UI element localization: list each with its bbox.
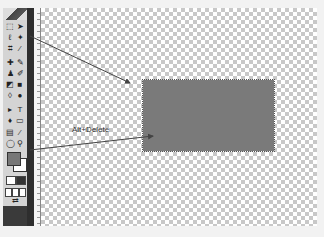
crop-tool-icon[interactable]: ⌗ xyxy=(5,44,15,54)
standard-mode-button[interactable] xyxy=(6,176,16,185)
filled-selection[interactable] xyxy=(143,80,274,151)
panel-divider xyxy=(27,8,34,226)
eraser-tool-icon[interactable]: ◩ xyxy=(5,80,15,90)
marquee-tool-icon[interactable]: ⬚ xyxy=(5,22,15,32)
annotation-label: Alt+Delete xyxy=(72,125,109,134)
shape-tool-icon[interactable]: ▭ xyxy=(15,116,25,126)
zoom-tool-icon[interactable]: ⚲ xyxy=(15,139,25,149)
jump-to-imageready-icon[interactable]: ⇄ xyxy=(7,196,23,206)
gradient-tool-icon[interactable]: ■ xyxy=(15,80,25,90)
path-selection-tool-icon[interactable]: ▸ xyxy=(5,105,15,115)
pen-tool-icon[interactable]: ♦ xyxy=(5,116,15,126)
brush-tool-icon[interactable]: ✎ xyxy=(15,58,25,68)
toolbox-header-logo xyxy=(3,8,27,20)
notes-tool-icon[interactable]: ▤ xyxy=(5,128,15,138)
lasso-tool-icon[interactable]: ℓ xyxy=(5,33,15,43)
foreground-color-swatch[interactable] xyxy=(7,152,21,166)
dodge-tool-icon[interactable]: ● xyxy=(15,91,25,101)
healing-brush-tool-icon[interactable]: ✚ xyxy=(5,58,15,68)
eyedropper-tool-icon[interactable]: ⁄ xyxy=(15,128,25,138)
hand-tool-icon[interactable]: ◯ xyxy=(5,139,15,149)
blur-tool-icon[interactable]: ◊ xyxy=(5,91,15,101)
history-brush-tool-icon[interactable]: ✐ xyxy=(15,69,25,79)
toolbox-footer xyxy=(3,206,27,226)
vertical-ruler xyxy=(34,8,41,226)
type-tool-icon[interactable]: T xyxy=(15,105,25,115)
quick-mask-mode-button[interactable] xyxy=(16,176,26,185)
toolbox: ⬚ ➤ ℓ ✦ ⌗ ⁄ ✚ ✎ ♟ ✐ ◩ ■ ◊ ● ▸ T ♦ ▭ ▤ ⁄ … xyxy=(3,8,28,226)
move-tool-icon[interactable]: ➤ xyxy=(15,22,25,32)
clone-stamp-tool-icon[interactable]: ♟ xyxy=(5,69,15,79)
magic-wand-tool-icon[interactable]: ✦ xyxy=(15,33,25,43)
slice-tool-icon[interactable]: ⁄ xyxy=(15,44,25,54)
